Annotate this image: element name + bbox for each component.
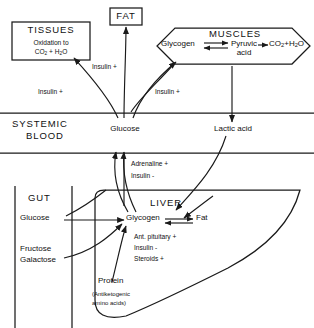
liver-glycogen-label: Glycogen bbox=[126, 214, 160, 223]
liver-fat-label: Fat bbox=[196, 214, 208, 223]
systemic-blood-title-line1: SYSTEMIC bbox=[12, 119, 68, 130]
arrow-glucose-to-fat bbox=[124, 27, 126, 118]
gut-galactose-label: Galactose bbox=[20, 256, 56, 265]
insulin-tissues-label: Insulin + bbox=[92, 63, 117, 70]
gut-fructose-label: Fructose bbox=[20, 245, 51, 254]
muscles-glycogen-label: Glycogen bbox=[161, 40, 195, 49]
tissues-title: TISSUES bbox=[12, 25, 90, 36]
liver-insulin-minus-label: Insulin - bbox=[134, 244, 157, 251]
systemic-blood-title-line2: BLOOD bbox=[26, 131, 64, 142]
tissues-line2: CO2 + H2O bbox=[12, 48, 90, 56]
insulin-minus-label: Insulin - bbox=[131, 172, 154, 179]
muscles-pyruvic-label2: acid bbox=[228, 49, 260, 58]
muscles-co2-label: CO2+H2O bbox=[269, 40, 304, 49]
adrenaline-plus-label: Adrenaline + bbox=[131, 160, 168, 167]
arrow-fructose-galactose-to-liver bbox=[64, 224, 122, 258]
protein-note-line1: (Antiketogenic bbox=[92, 291, 130, 298]
fat-title: FAT bbox=[110, 11, 142, 22]
steroids-plus-label: Steroids + bbox=[134, 255, 164, 262]
gut-glucose-label: Glucose bbox=[20, 214, 49, 223]
blood-glucose-label: Glucose bbox=[95, 125, 155, 134]
metabolism-diagram: TISSUES Oxidation to CO2 + H2O FAT MUSCL… bbox=[0, 0, 314, 328]
arrow-lactic-acid-to-liver bbox=[176, 136, 226, 210]
insulin-fat-label: Insulin + bbox=[38, 88, 63, 95]
liver-protein-label: Protein bbox=[98, 277, 123, 286]
arrow-protein-to-glycogen bbox=[112, 226, 126, 282]
gut-title: GUT bbox=[28, 193, 51, 204]
liver-title: LIVER bbox=[150, 198, 182, 209]
ant-pituitary-label: Ant. pituitary + bbox=[134, 233, 176, 240]
tissues-line1: Oxidation to bbox=[12, 39, 90, 46]
blood-lactic-acid-label: Lactic acid bbox=[198, 125, 268, 134]
protein-note-line2: amino acids) bbox=[92, 300, 126, 307]
insulin-muscles-label: Insulin + bbox=[155, 88, 180, 95]
